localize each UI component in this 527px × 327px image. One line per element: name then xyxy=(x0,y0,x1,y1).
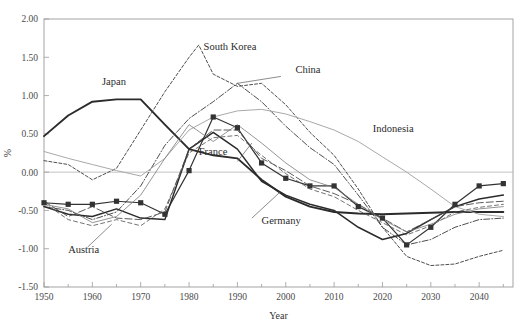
series-label-japan: Japan xyxy=(102,76,127,87)
series-markers xyxy=(41,114,506,247)
data-point-marker xyxy=(186,168,191,173)
data-point-marker xyxy=(283,176,288,181)
leader-line-germany xyxy=(252,191,281,218)
chart-container: 1950196019701980199020002010202020302040… xyxy=(0,0,527,327)
x-tick-label: 1990 xyxy=(228,292,247,302)
data-point-marker xyxy=(162,212,167,217)
data-point-marker xyxy=(477,183,482,188)
data-point-marker xyxy=(307,183,312,188)
series-label-france: France xyxy=(199,146,228,157)
series-label-south-korea: South Korea xyxy=(204,41,257,52)
data-point-marker xyxy=(90,202,95,207)
x-axis-title: Year xyxy=(269,310,288,321)
y-tick-label: -1.50 xyxy=(18,282,38,292)
plot-frame xyxy=(44,19,513,287)
y-tick-label: 0.00 xyxy=(21,168,38,178)
data-point-marker xyxy=(332,183,337,188)
line-chart: 1950196019701980199020002010202020302040… xyxy=(0,0,527,327)
x-tick-label: 2020 xyxy=(373,292,392,302)
series-label-china: China xyxy=(295,64,320,75)
y-tick-label: 1.50 xyxy=(21,53,38,63)
series-label-indonesia: Indonesia xyxy=(373,123,414,134)
data-point-marker xyxy=(356,204,361,209)
data-point-marker xyxy=(259,160,264,165)
y-tick-label: -1.00 xyxy=(18,244,38,254)
series-line-japan xyxy=(44,99,503,214)
data-point-marker xyxy=(138,200,143,205)
x-tick-label: 2010 xyxy=(325,292,344,302)
data-point-marker xyxy=(235,125,240,130)
data-point-marker xyxy=(501,181,506,186)
y-tick-label: 2.00 xyxy=(21,14,38,24)
y-axis-title: % xyxy=(2,149,13,157)
plot-frame-rect xyxy=(44,19,513,287)
x-tick-label: 1980 xyxy=(180,292,199,302)
x-tick-label: 1950 xyxy=(35,292,54,302)
x-tick-label: 2040 xyxy=(470,292,489,302)
series-label-germany: Germany xyxy=(262,215,302,226)
y-axis-tick-labels: -1.50-1.00-0.500.000.501.001.502.00 xyxy=(18,14,38,292)
data-point-marker xyxy=(404,242,409,247)
x-axis-ticks xyxy=(44,282,503,287)
x-tick-label: 1960 xyxy=(83,292,102,302)
data-point-marker xyxy=(452,202,457,207)
x-tick-label: 1970 xyxy=(131,292,150,302)
data-point-marker xyxy=(66,202,71,207)
x-tick-label: 2030 xyxy=(421,292,440,302)
y-tick-label: -0.50 xyxy=(18,206,38,216)
x-tick-label: 2000 xyxy=(276,292,295,302)
leader-line-china xyxy=(237,76,281,83)
data-point-marker xyxy=(211,114,216,119)
data-point-marker xyxy=(428,225,433,230)
series-annotations: South KoreaChinaJapanIndonesiaFranceGerm… xyxy=(68,41,414,256)
y-tick-label: 1.00 xyxy=(21,91,38,101)
data-point-marker xyxy=(380,215,385,220)
series-line-indonesia xyxy=(44,109,503,216)
series-label-austria: Austria xyxy=(68,244,99,255)
y-tick-label: 0.50 xyxy=(21,129,38,139)
data-point-marker xyxy=(114,199,119,204)
x-axis-tick-labels: 1950196019701980199020002010202020302040 xyxy=(35,292,489,302)
data-point-marker xyxy=(41,200,46,205)
